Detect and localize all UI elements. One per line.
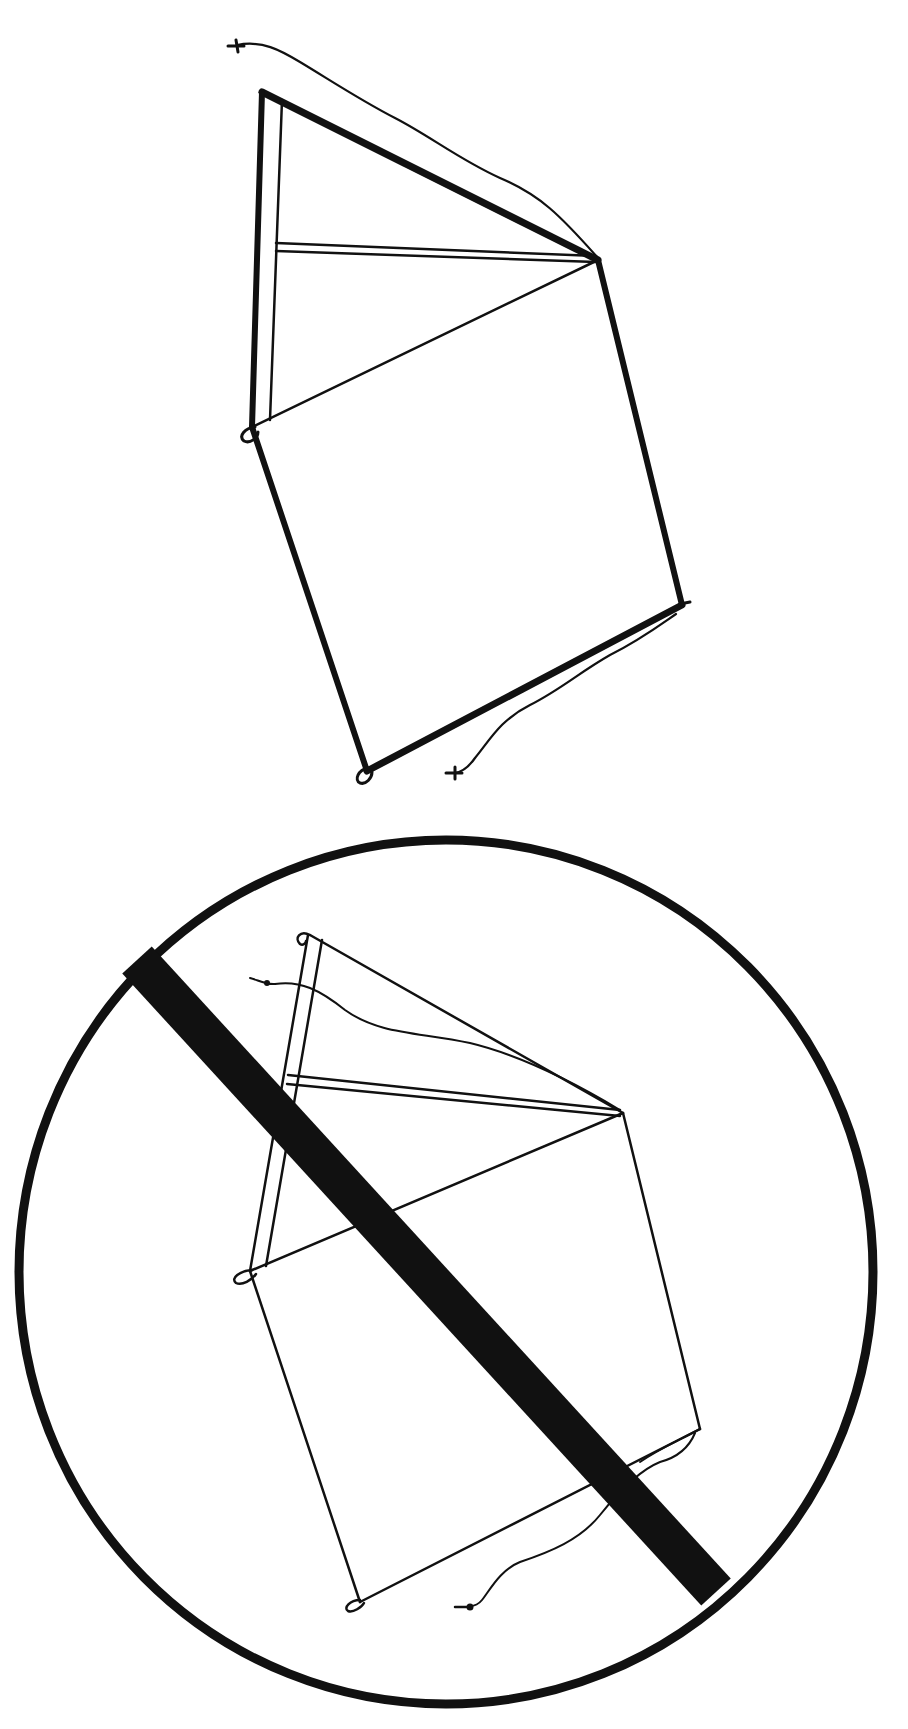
kite-left-spar-outer <box>252 92 262 427</box>
kite-top-edge <box>310 935 623 1113</box>
kite-icon <box>228 40 690 783</box>
kite-cross-spar <box>276 243 596 262</box>
kite-string <box>237 44 598 258</box>
kite-lower-left-edge <box>252 427 367 771</box>
kite-lower-left-edge <box>250 1271 360 1602</box>
kite-right-edge <box>623 1113 700 1429</box>
kite-top-edge <box>262 92 598 260</box>
kite-tail-string-back <box>640 1429 700 1462</box>
kite-bottom-edge <box>367 605 682 771</box>
string-knot-icon <box>228 40 244 52</box>
prohibition-slash <box>137 960 716 1592</box>
kite-tail-string <box>455 614 676 773</box>
diagram-canvas <box>0 0 908 1729</box>
string-knot-icon <box>446 767 462 779</box>
string-knot-icon <box>264 980 270 986</box>
kite-left-spar-inner <box>270 100 282 420</box>
kite-right-edge <box>598 260 682 605</box>
kite-diagonal <box>252 260 598 427</box>
eyelet-icon <box>680 602 690 604</box>
